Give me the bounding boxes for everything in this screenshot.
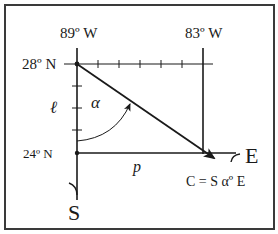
- label-p-side: p: [132, 158, 141, 176]
- label-alpha: α: [91, 93, 101, 112]
- angle-arc: [77, 104, 130, 141]
- label-28n: 28º N: [22, 56, 56, 72]
- label-course-formula: C = S αº E: [186, 174, 245, 189]
- label-l-side: ℓ: [50, 98, 57, 117]
- label-83w: 83º W: [185, 25, 223, 41]
- label-24n: 24º N: [23, 146, 53, 161]
- navigation-diagram: 89º W 83º W 28º N 24º N ℓ α p E S C = S …: [0, 0, 278, 234]
- south-hook-icon: [69, 183, 77, 195]
- label-east: E: [245, 143, 258, 168]
- label-south: S: [68, 200, 80, 225]
- east-hook-icon: [231, 154, 240, 162]
- corner-point: [75, 151, 79, 155]
- label-89w: 89º W: [60, 25, 98, 41]
